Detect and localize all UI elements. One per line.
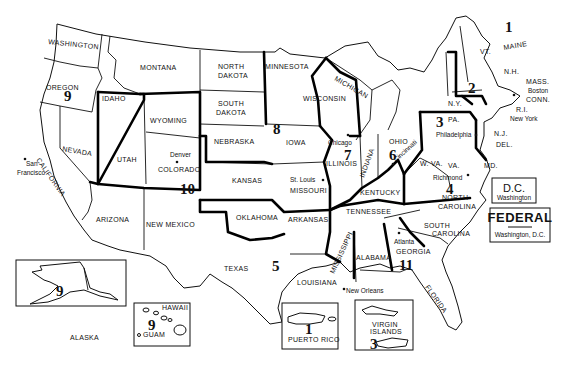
label-south-dakota-2: DAKOTA: [216, 109, 246, 116]
city-atlanta: Atlanta: [394, 238, 415, 245]
region-2: 2: [468, 80, 476, 96]
label-utah: UTAH: [117, 156, 137, 163]
label-nebraska: NEBRASKA: [214, 138, 255, 145]
region-8: 8: [273, 121, 281, 137]
label-south-dakota-1: SOUTH: [218, 100, 244, 107]
us-regions-map: D.C. Washington FEDERAL Washington, D.C.…: [0, 0, 565, 367]
region-9-alaska: 9: [56, 283, 64, 299]
label-vermont: VT.: [480, 48, 491, 55]
label-arkansas: ARKANSAS: [288, 216, 329, 223]
label-missouri: MISSOURI: [290, 187, 327, 194]
label-colorado: COLORADO: [158, 166, 201, 173]
region-6: 6: [389, 147, 397, 163]
region-9: 9: [64, 88, 72, 104]
label-south-carolina-2: CAROLINA: [432, 230, 470, 237]
city-denver: Denver: [170, 151, 192, 158]
label-maine: MAINE: [503, 40, 528, 51]
city-new-york: New York: [510, 115, 538, 122]
label-minnesota: MINNESOTA: [265, 63, 309, 70]
label-ohio: OHIO: [389, 138, 408, 145]
city-philadelphia: Philadelphia: [436, 131, 472, 139]
label-delaware: DEL.: [496, 141, 513, 148]
label-illinois: ILLINOIS: [326, 160, 357, 167]
dc-subtitle: Washington: [497, 194, 531, 202]
label-georgia: GEORGIA: [396, 248, 431, 255]
city-st-louis: St. Louis: [290, 176, 316, 183]
label-new-york: N.Y.: [448, 100, 462, 107]
label-connecticut: CONN.: [526, 96, 550, 103]
city-san-francisco-1: San: [26, 160, 38, 167]
label-texas: TEXAS: [224, 265, 248, 272]
region-4: 4: [446, 181, 454, 197]
label-massachusetts: MASS.: [526, 78, 549, 85]
label-puerto-rico: PUERTO RICO: [288, 336, 340, 343]
label-alabama: ALABAMA: [356, 254, 391, 261]
label-kansas: KANSAS: [232, 177, 262, 184]
label-maryland: MD.: [484, 162, 498, 169]
region-1-puerto-rico: 1: [305, 321, 313, 337]
city-san-francisco-2: Francisco: [17, 169, 46, 176]
region-10: 10: [180, 181, 195, 197]
label-north-dakota-1: NORTH: [218, 63, 244, 70]
label-alaska: ALASKA: [70, 334, 99, 341]
label-new-jersey: N.J.: [494, 130, 508, 137]
region-11: 11: [399, 257, 413, 273]
region-3-virgin-islands: 3: [370, 336, 378, 352]
label-iowa: IOWA: [286, 139, 306, 146]
label-kentucky: KENTUCKY: [360, 189, 401, 196]
label-hawaii: HAWAII: [162, 304, 188, 311]
label-virgin-islands-2: ISLANDS: [370, 328, 402, 335]
city-richmond: Richmond: [433, 174, 463, 181]
label-west-virginia: W. VA.: [420, 160, 443, 167]
label-virginia: VA.: [448, 162, 460, 169]
region-9-hawaii: 9: [148, 317, 156, 333]
label-new-hampshire: N.H.: [504, 68, 519, 75]
label-idaho: IDAHO: [102, 95, 126, 102]
label-montana: MONTANA: [140, 64, 177, 71]
label-louisiana: LOUISIANA: [297, 279, 337, 286]
dc-title: D.C.: [503, 182, 525, 194]
label-oregon: OREGON: [46, 84, 79, 91]
label-arizona: ARIZONA: [96, 216, 129, 223]
label-virgin-islands-1: VIRGIN: [372, 321, 398, 328]
federal-title: FEDERAL: [488, 210, 553, 225]
label-new-mexico: NEW MEXICO: [146, 221, 195, 228]
label-oklahoma: OKLAHOMA: [236, 214, 278, 221]
label-north-dakota-2: DAKOTA: [218, 72, 248, 79]
label-wisconsin: WISCONSIN: [303, 95, 346, 102]
region-7: 7: [344, 147, 352, 163]
label-rhode-island: R.I.: [516, 106, 528, 113]
region-5: 5: [272, 258, 280, 274]
label-north-carolina-2: CAROLINA: [438, 203, 476, 210]
label-tennessee: TENNESSEE: [346, 208, 391, 215]
label-pennsylvania: PA.: [448, 116, 460, 123]
region-3: 3: [436, 114, 444, 130]
city-new-orleans: New Orleans: [346, 287, 384, 294]
label-wyoming: WYOMING: [150, 117, 187, 124]
federal-subtitle: Washington, D.C.: [495, 231, 546, 239]
city-chicago: Chicago: [328, 139, 352, 147]
region-1: 1: [505, 19, 513, 35]
label-south-carolina-1: SOUTH: [424, 222, 450, 229]
city-boston: Boston: [528, 87, 549, 94]
